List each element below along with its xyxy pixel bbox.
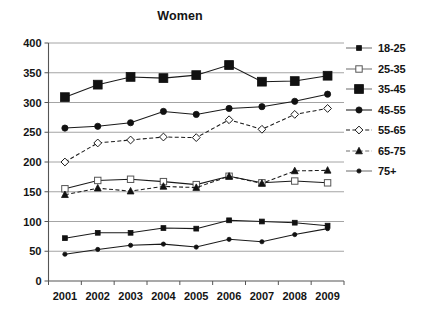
data-point-marker	[128, 230, 133, 235]
x-axis-labels-group: 200120022003200420052006200720082009	[53, 290, 340, 302]
data-point-marker	[194, 226, 199, 231]
data-point-marker	[259, 104, 265, 110]
data-point-marker	[126, 73, 135, 82]
legend-item-18-25[interactable]: 18-25	[345, 38, 421, 59]
data-point-marker	[355, 85, 364, 94]
data-point-marker	[61, 93, 70, 102]
data-point-marker	[225, 116, 233, 124]
data-point-marker	[95, 177, 101, 183]
y-axis-labels-group: 050100150200250300350400	[23, 37, 41, 287]
y-tick-label: 200	[23, 156, 41, 168]
data-point-marker	[356, 107, 362, 113]
data-point-marker	[192, 71, 201, 80]
data-point-marker	[260, 219, 265, 224]
x-tick-label: 2003	[118, 290, 142, 302]
x-tick-label: 2006	[217, 290, 241, 302]
data-point-marker	[260, 240, 264, 244]
data-point-marker	[96, 247, 100, 251]
data-point-marker	[95, 123, 101, 129]
data-point-marker	[63, 236, 68, 241]
y-tick-label: 400	[23, 37, 41, 49]
legend-marker-icon	[345, 122, 373, 138]
data-point-marker	[324, 105, 332, 113]
data-point-marker	[356, 66, 362, 72]
data-point-marker	[227, 237, 231, 241]
data-point-marker	[258, 77, 267, 86]
x-tick-label: 2001	[53, 290, 77, 302]
data-point-marker	[161, 226, 166, 231]
legend-marker-icon	[345, 163, 373, 179]
legend-marker-icon	[345, 81, 373, 97]
series-layer	[61, 61, 332, 257]
y-tick-label: 50	[29, 245, 41, 257]
data-point-marker	[127, 176, 133, 182]
data-point-marker	[128, 243, 132, 247]
series-35-45	[61, 61, 332, 102]
chart-legend: 18-2525-3535-4545-5555-6565-7575+	[345, 38, 421, 182]
x-tick-label: 2002	[86, 290, 110, 302]
data-point-marker	[94, 139, 102, 147]
legend-item-label: 35-45	[373, 83, 406, 95]
data-point-marker	[160, 108, 166, 114]
data-point-marker	[192, 134, 200, 142]
data-point-marker	[193, 111, 199, 117]
x-tick-label: 2004	[151, 290, 176, 302]
data-point-marker	[293, 232, 297, 236]
data-point-marker	[226, 105, 232, 111]
legend-marker-icon	[345, 143, 373, 159]
legend-item-label: 65-75	[373, 145, 406, 157]
y-tick-label: 100	[23, 216, 41, 228]
data-point-marker	[292, 98, 298, 104]
legend-item-label: 25-35	[373, 63, 406, 75]
legend-item-25-35[interactable]: 25-35	[345, 59, 421, 80]
legend-marker-icon	[345, 102, 373, 118]
x-tick-label: 2007	[250, 290, 274, 302]
data-point-marker	[63, 252, 67, 256]
data-point-marker	[93, 80, 102, 89]
legend-item-65-75[interactable]: 65-75	[345, 141, 421, 162]
legend-marker-icon	[345, 61, 373, 77]
legend-item-label: 75+	[373, 165, 396, 177]
data-point-marker	[291, 111, 299, 119]
y-tick-label: 150	[23, 186, 41, 198]
series-line	[65, 65, 328, 97]
series-45-55	[62, 91, 331, 131]
data-point-marker	[62, 125, 68, 131]
legend-item-label: 45-55	[373, 104, 406, 116]
legend-marker-icon	[345, 40, 373, 56]
x-tick-label: 2009	[315, 290, 339, 302]
data-point-marker	[323, 71, 332, 80]
legend-item-45-55[interactable]: 45-55	[345, 100, 421, 121]
data-point-marker	[324, 91, 330, 97]
y-tick-label: 250	[23, 126, 41, 138]
legend-item-55-65[interactable]: 55-65	[345, 120, 421, 141]
data-point-marker	[292, 220, 297, 225]
data-point-marker	[225, 61, 234, 70]
data-point-marker	[94, 184, 101, 191]
data-point-marker	[292, 178, 298, 184]
legend-item-75+[interactable]: 75+	[345, 161, 421, 182]
y-tick-label: 300	[23, 97, 41, 109]
data-point-marker	[127, 136, 135, 144]
data-point-marker	[127, 120, 133, 126]
data-point-marker	[290, 77, 299, 86]
x-axis-ticks-group	[49, 281, 345, 285]
data-point-marker	[95, 230, 100, 235]
data-point-marker	[325, 227, 329, 231]
data-point-marker	[357, 46, 362, 51]
data-point-marker	[324, 167, 331, 174]
x-tick-label: 2008	[283, 290, 307, 302]
y-tick-label: 0	[35, 275, 41, 287]
data-point-marker	[194, 245, 198, 249]
data-point-marker	[357, 169, 361, 173]
data-point-marker	[161, 242, 165, 246]
legend-item-35-45[interactable]: 35-45	[345, 79, 421, 100]
legend-item-label: 55-65	[373, 124, 406, 136]
x-tick-label: 2005	[184, 290, 208, 302]
y-axis-ticks-group	[45, 43, 49, 281]
chart-container: Women 050100150200250300350400 200120022…	[0, 0, 421, 322]
data-point-marker	[160, 133, 168, 141]
data-point-marker	[227, 218, 232, 223]
y-tick-label: 350	[23, 67, 41, 79]
data-point-marker	[159, 74, 168, 83]
